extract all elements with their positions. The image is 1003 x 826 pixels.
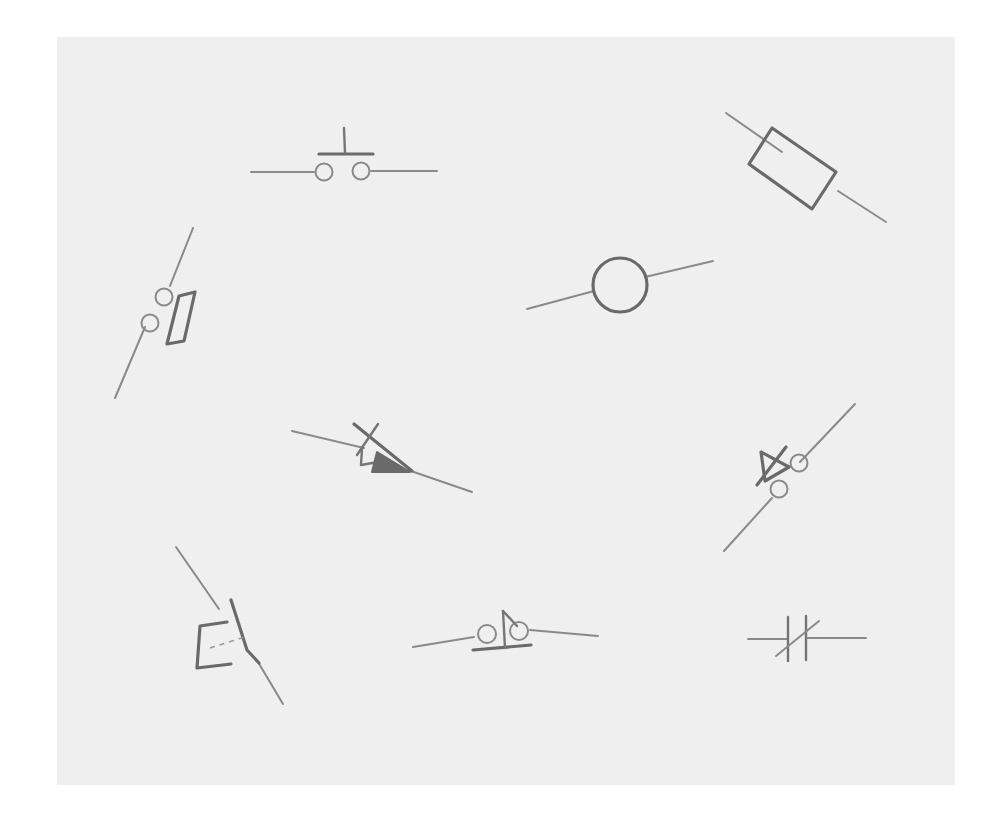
- actuator-bar: [473, 645, 531, 650]
- lead-right: [645, 261, 713, 277]
- lead-upper-left: [292, 431, 364, 448]
- lead-upper-right: [800, 404, 855, 462]
- symbol-resistor-top-right[interactable]: [726, 113, 886, 222]
- symbol-pushbutton-bottom[interactable]: [413, 611, 598, 650]
- symbol-diode-center[interactable]: [292, 424, 472, 492]
- lead-lower: [115, 327, 145, 398]
- symbol-diode-right[interactable]: [724, 404, 855, 551]
- lead-lower-left: [724, 498, 772, 551]
- terminal-circle-upper: [791, 455, 808, 472]
- lead-right: [530, 630, 598, 636]
- lamp-circle-body: [593, 258, 647, 312]
- relay-switch-arm: [231, 600, 259, 663]
- terminal-circle-left: [478, 625, 496, 643]
- terminal-circle-lower: [142, 315, 159, 332]
- symbol-lamp-center-right[interactable]: [527, 258, 713, 312]
- lead-upper: [726, 113, 782, 152]
- symbol-capacitor-bottom-right[interactable]: [748, 616, 866, 661]
- terminal-circle-right: [510, 622, 528, 640]
- sketch-page: [0, 0, 1003, 826]
- terminal-circle-right: [353, 163, 370, 180]
- mechanical-linkage-dashed: [210, 637, 245, 648]
- plunger-stem: [503, 611, 505, 648]
- symbol-relay-bottom-left[interactable]: [176, 547, 283, 704]
- symbol-switch-left[interactable]: [115, 228, 195, 398]
- lead-upper: [176, 547, 219, 609]
- lead-lower-right: [408, 470, 472, 492]
- plunger-flag: [503, 611, 517, 626]
- lead-lower: [838, 191, 886, 222]
- lead-lower: [258, 662, 283, 704]
- terminal-circle-upper: [156, 289, 173, 306]
- terminal-circle-lower: [771, 481, 788, 498]
- terminal-circle-left: [316, 164, 333, 181]
- lead-left: [527, 291, 594, 309]
- lead-upper: [170, 228, 193, 286]
- lead-left: [413, 637, 474, 647]
- coil-bracket: [197, 622, 231, 668]
- plunger-stem: [344, 128, 345, 153]
- symbol-pushbutton-top[interactable]: [251, 128, 437, 181]
- circuit-symbols-canvas: [0, 0, 1003, 826]
- resistor-body-rect: [749, 128, 836, 209]
